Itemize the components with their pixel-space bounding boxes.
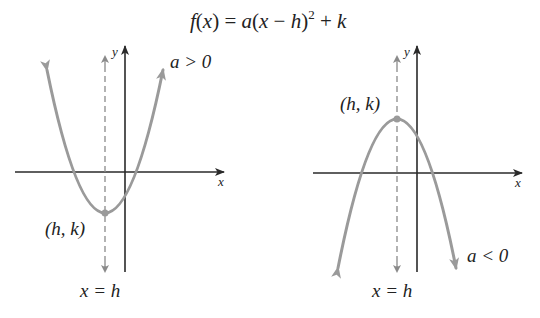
left-vertex-label: (h, k) (45, 218, 85, 240)
left-symmetry-label: x = h (79, 280, 120, 301)
left-x-axis-label: x (217, 174, 224, 189)
parabola-diagram: f(x) = a(x − h)2 + k x y a > 0 (h, k) x … (0, 0, 540, 318)
right-x-axis-label: x (514, 175, 521, 190)
right-graph: x y (h, k) a < 0 x = h (313, 44, 522, 301)
left-condition-label: a > 0 (170, 51, 212, 72)
left-y-axis-label: y (110, 44, 118, 59)
right-vertex-point (394, 116, 401, 123)
right-symmetry-label: x = h (371, 280, 412, 301)
right-vertex-label: (h, k) (340, 93, 380, 115)
left-vertex-point (102, 210, 109, 217)
right-y-axis-label: y (402, 44, 410, 59)
vertex-form-formula: f(x) = a(x − h)2 + k (190, 7, 347, 33)
right-condition-label: a < 0 (467, 245, 509, 266)
left-graph: x y a > 0 (h, k) x = h (15, 44, 224, 301)
